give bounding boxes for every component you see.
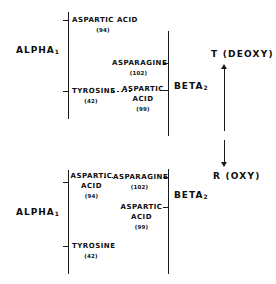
residue-number-asp99-top: (99)	[122, 105, 164, 113]
residue-label-asp94-line2-bottom: ACID	[70, 182, 113, 190]
residue-label-asp94-top: ASPARTIC ACID	[72, 16, 138, 24]
arrow-shaft-down	[224, 140, 225, 162]
residue-number-tyr42-top: (42)	[72, 97, 110, 105]
beta2-chain-label-bottom: BETA2	[174, 191, 209, 201]
beta2-chain-subscript-bottom: 2	[203, 193, 208, 200]
alpha1-chain-name-top: ALPHA	[16, 45, 55, 55]
diagram-canvas: ASPARTIC ACID (94) TYROSINE (42) ASPARAG…	[0, 0, 276, 284]
residue-label-tyr42-top: TYROSINE	[72, 87, 115, 95]
arrow-shaft-up	[224, 69, 225, 131]
beta2-chain-name-top: BETA	[174, 81, 203, 91]
residue-number-asn102-bottom: (102)	[113, 183, 166, 191]
state-label-r-oxy: R (OXY)	[213, 172, 260, 180]
beta2-chain-label-top: BETA2	[174, 82, 209, 92]
beta2-chain-subscript-top: 2	[203, 84, 208, 91]
alpha1-chain-label-bottom: ALPHA1	[16, 208, 60, 218]
alpha1-chain-subscript-bottom: 1	[55, 210, 60, 217]
beta2-chain-line-bottom	[168, 169, 169, 274]
residue-number-asp99-bottom: (99)	[120, 223, 163, 231]
residue-label-asp99-line1-bottom: ASPARTIC	[120, 203, 163, 211]
residue-label-asn102-top: ASPARAGINE	[112, 59, 167, 67]
residue-number-asp94-bottom: (94)	[70, 192, 113, 200]
alpha1-chain-name-bottom: ALPHA	[16, 207, 55, 217]
residue-number-asp94-top: (94)	[72, 26, 134, 34]
residue-label-asn102-bottom: ASPARAGINE	[113, 173, 168, 181]
residue-number-tyr42-bottom: (42)	[72, 252, 110, 260]
beta2-chain-line-top	[168, 31, 169, 136]
beta2-tick-asp99-bottom	[163, 207, 169, 208]
residue-label-asp99-line2-top: ACID	[122, 95, 164, 103]
alpha1-chain-label-top: ALPHA1	[16, 46, 60, 56]
residue-label-asp99-line1-top: ASPARTIC	[122, 85, 164, 93]
residue-number-asn102-top: (102)	[112, 69, 165, 77]
alpha1-tick-tyr42-top	[63, 91, 69, 92]
state-label-t-deoxy: T (DEOXY)	[211, 50, 274, 58]
alpha1-chain-line-top	[68, 12, 69, 119]
alpha1-tick-asp94-top	[63, 20, 69, 21]
beta2-chain-name-bottom: BETA	[174, 190, 203, 200]
alpha1-tick-asp94-bottom	[63, 182, 69, 183]
alpha1-chain-subscript-top: 1	[55, 48, 60, 55]
residue-label-asp99-line2-bottom: ACID	[120, 213, 163, 221]
alpha1-tick-tyr42-bottom	[63, 246, 69, 247]
residue-label-asp94-line1-bottom: ASPARTIC	[70, 172, 113, 180]
arrow-head-down-icon	[221, 162, 227, 167]
alpha1-chain-line-bottom	[68, 170, 69, 274]
residue-label-tyr42-bottom: TYROSINE	[72, 242, 115, 250]
